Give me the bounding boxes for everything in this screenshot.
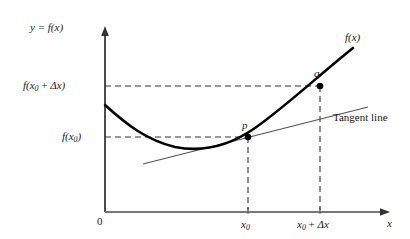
y-value-label-upper: f(x0 + Δx) [23, 80, 65, 91]
x-axis-arrowhead [380, 208, 390, 216]
point-q-marker [317, 83, 324, 90]
x-tick-label-x0: x0 [241, 219, 250, 230]
y-axis [101, 26, 109, 212]
point-label-q: q [314, 68, 320, 79]
y-axis-arrowhead [101, 26, 109, 36]
origin-label: 0 [97, 216, 103, 227]
y-axis-label: y = f(x) [30, 22, 63, 33]
point-label-p: p [242, 120, 248, 131]
y-value-upper-text: f(x0 + Δx) [23, 79, 65, 91]
tangent-line-label: Tangent line [333, 112, 388, 123]
point-p-marker [245, 134, 252, 141]
curve-label: f(x) [345, 32, 360, 43]
function-curve [105, 48, 353, 149]
x-tick-x0-text: x0 [241, 218, 250, 230]
y-value-lower-text: f(x0) [62, 130, 81, 142]
x-tick-label-x0-plus-dx: x0 + Δx [297, 219, 329, 230]
x-axis-label: x [387, 218, 392, 229]
y-value-label-lower: f(x0) [62, 131, 81, 142]
derivative-diagram: y = f(x) x 0 f(x0 + Δx) f(x0) x0 x0 + Δx… [0, 0, 410, 239]
x-tick-x0-plus-dx-text: x0 + Δx [297, 218, 329, 230]
